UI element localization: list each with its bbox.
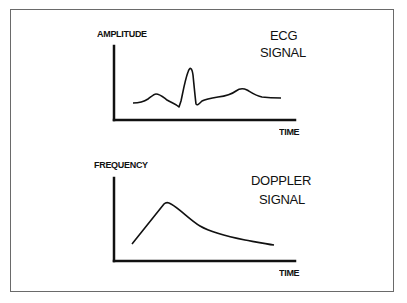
diagram-graphics <box>0 0 407 303</box>
ecg-waveform <box>133 68 281 107</box>
ecg-axes <box>114 46 295 120</box>
doppler-waveform <box>132 203 274 246</box>
doppler-axes <box>114 178 295 261</box>
